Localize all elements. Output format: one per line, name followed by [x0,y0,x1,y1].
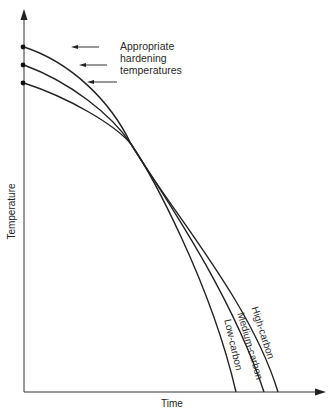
annotation-text: Appropriate hardening temperatures [120,40,182,76]
annotation-line-1: Appropriate [120,40,182,52]
curve-low-carbon [24,83,236,392]
x-axis-label: Time [155,398,189,409]
marker-high-carbon [21,45,26,50]
y-axis-arrow-icon [21,9,28,20]
annotation-line-2: hardening [120,52,182,64]
marker-low-carbon [21,81,26,86]
annotation-arrowhead-2-icon [79,63,86,67]
x-axis-arrow-icon [315,389,326,396]
y-axis-label: Temperature [6,182,17,242]
annotation-arrowhead-1-icon [71,45,78,49]
annotation-line-3: temperatures [120,64,182,76]
annotation-arrowhead-3-icon [87,80,94,84]
marker-medium-carbon [21,63,26,68]
